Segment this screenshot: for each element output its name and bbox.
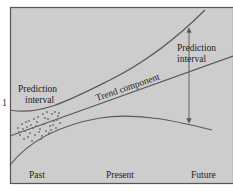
right-prediction-label-line2: interval <box>177 54 206 64</box>
left-prediction-label-line2: interval <box>25 95 54 105</box>
x-tick-present: Present <box>106 170 134 180</box>
x-tick-past: Past <box>29 170 45 180</box>
right-prediction-label-line1: Prediction <box>177 43 216 53</box>
x-tick-future: Future <box>191 170 216 180</box>
left-prediction-label-line1: Prediction <box>18 84 57 94</box>
forecast-diagram: Prediction interval Prediction interval … <box>0 0 233 191</box>
